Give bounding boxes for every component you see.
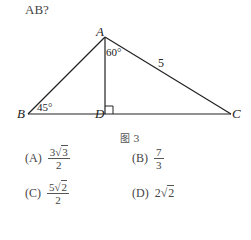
- option-key: (B): [132, 151, 148, 166]
- side-ac: [105, 37, 231, 114]
- option-c[interactable]: (C) 5√2 2: [25, 181, 69, 206]
- radical-expression: 2√2: [155, 186, 175, 201]
- option-b[interactable]: (B) 7 3: [132, 146, 164, 171]
- side-label-ac: 5: [158, 56, 164, 71]
- option-a[interactable]: (A) 3√3 2: [25, 146, 70, 171]
- option-d[interactable]: (D) 2√2: [132, 186, 174, 201]
- right-angle-mark: [105, 106, 113, 114]
- fraction: 5√2 2: [47, 181, 69, 206]
- option-key: (D): [132, 186, 149, 201]
- point-label-a: A: [96, 24, 104, 40]
- angle-label-45: 45°: [37, 101, 52, 113]
- option-key: (C): [25, 186, 41, 201]
- figure-caption: 图 3: [120, 130, 140, 145]
- point-label-b: B: [17, 106, 25, 122]
- fraction: 3√3 2: [48, 146, 70, 171]
- point-label-c: C: [232, 106, 241, 122]
- fraction: 7 3: [154, 146, 164, 171]
- point-label-d: D: [95, 106, 104, 122]
- option-key: (A): [25, 151, 42, 166]
- angle-label-60: 60°: [106, 46, 121, 58]
